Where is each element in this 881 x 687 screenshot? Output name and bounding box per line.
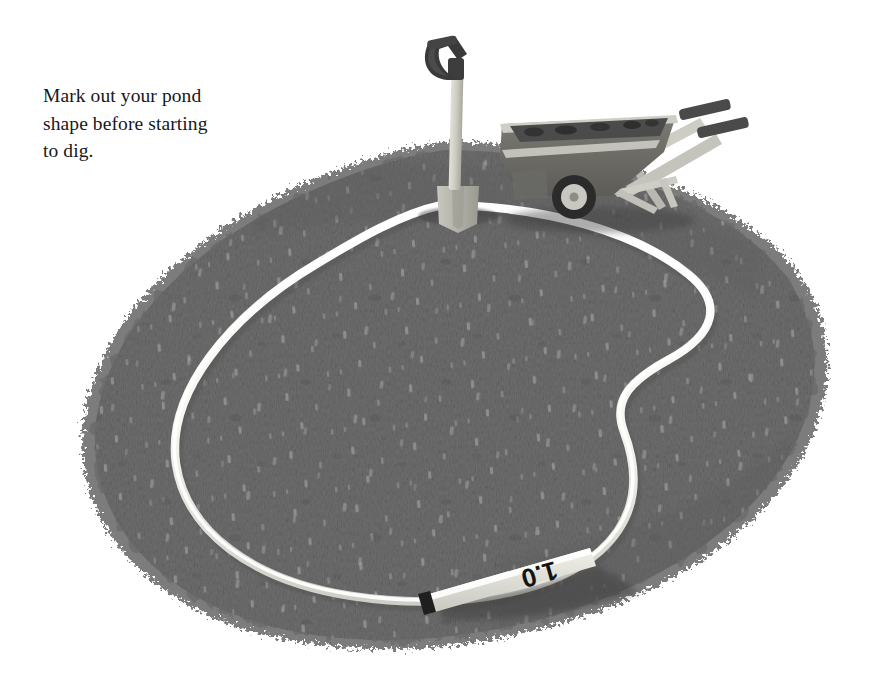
caption-text: Mark out your pond shape before starting… [43, 82, 253, 165]
wheelbarrow-axle [570, 193, 579, 202]
spade-blade-rib [452, 186, 464, 229]
wheelbarrow-shadow [505, 207, 695, 233]
illustration-scene: 1.0 Mark out your pond shape before star… [0, 0, 881, 687]
wheelbarrow-grip-lower [696, 116, 749, 138]
wheelbarrow-grip-upper [678, 98, 731, 120]
wheelbarrow-bracket [512, 168, 548, 200]
